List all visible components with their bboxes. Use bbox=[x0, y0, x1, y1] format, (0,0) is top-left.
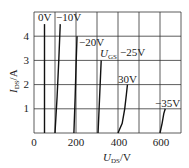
series-label-30v: 30V bbox=[118, 73, 137, 85]
x-axis-title: UDS/V bbox=[103, 151, 131, 165]
series-label-minus25v: −25V bbox=[120, 46, 145, 58]
chart: 0V −10V −20V UGS −25V 30V −35V 0 200 400… bbox=[0, 0, 189, 168]
ugs-label: UGS bbox=[100, 47, 117, 61]
curve-1 bbox=[55, 24, 60, 133]
curve-5 bbox=[160, 109, 165, 133]
y-tick-4: 4 bbox=[24, 30, 30, 42]
x-tick-400: 400 bbox=[111, 136, 128, 148]
y-axis-title: IDS/A bbox=[7, 69, 21, 94]
curve-3 bbox=[98, 60, 101, 133]
y-tick-1: 1 bbox=[24, 102, 30, 114]
curves bbox=[45, 24, 166, 133]
x-tick-600: 600 bbox=[153, 136, 170, 148]
series-label-0v: 0V bbox=[38, 11, 52, 23]
series-label-minus35v: −35V bbox=[155, 97, 180, 109]
x-tick-0: 0 bbox=[31, 136, 37, 148]
x-tick-200: 200 bbox=[68, 136, 85, 148]
y-tick-2: 2 bbox=[24, 78, 30, 90]
y-tick-3: 3 bbox=[24, 54, 30, 66]
series-label-minus10v: −10V bbox=[56, 11, 81, 23]
